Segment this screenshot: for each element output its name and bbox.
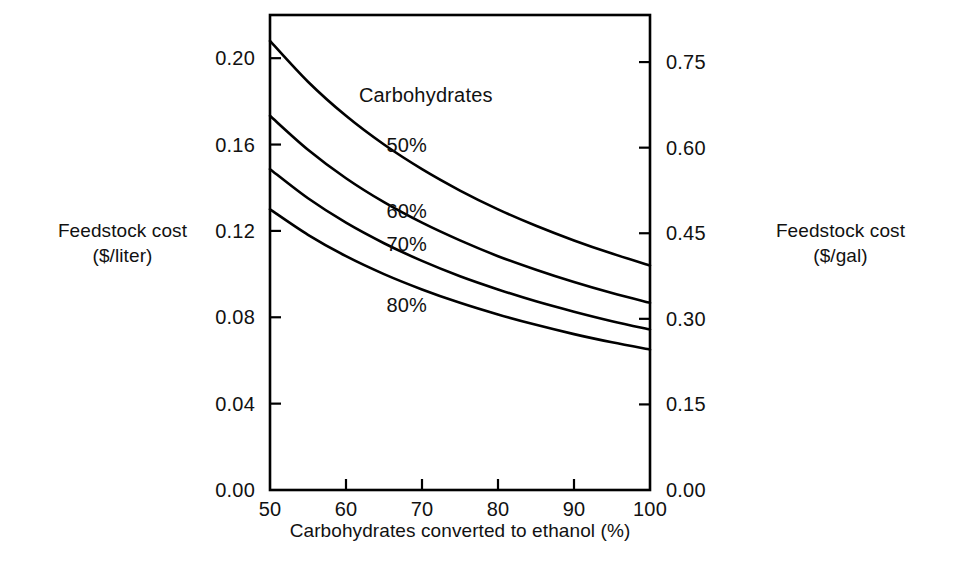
curve-60pct [270, 116, 650, 303]
y-right-tick-label: 0.30 [666, 307, 706, 330]
x-tick-label: 100 [633, 498, 667, 521]
x-tick-label: 90 [563, 498, 586, 521]
x-tick-label: 60 [335, 498, 358, 521]
y-right-tick-label: 0.00 [666, 479, 706, 502]
y-right-tick-label: 0.15 [666, 393, 706, 416]
figure-root: Feedstock cost ($/liter) Feedstock cost … [0, 0, 960, 582]
curve-50pct [270, 41, 650, 266]
x-tick-label: 50 [259, 498, 282, 521]
curve-label-70pct: 70% [386, 233, 427, 256]
y-left-tick-label: 0.04 [215, 392, 255, 415]
y-right-tick-label: 0.45 [666, 222, 706, 245]
x-tick-label: 70 [411, 498, 434, 521]
x-tick-label: 80 [487, 498, 510, 521]
y-left-tick-label: 0.16 [215, 133, 255, 156]
y-left-tick-label: 0.08 [215, 306, 255, 329]
curve-label-60pct: 60% [386, 200, 427, 223]
curve-label-50pct: 50% [386, 133, 427, 156]
curve-70pct [270, 169, 650, 329]
y-left-tick-label: 0.00 [215, 479, 255, 502]
series-group-label: Carbohydrates [359, 83, 493, 106]
curve-80pct [270, 209, 650, 349]
y-right-tick-label: 0.60 [666, 136, 706, 159]
y-left-tick-label: 0.20 [215, 47, 255, 70]
y-left-tick-label: 0.12 [215, 219, 255, 242]
axis-ticks [270, 58, 650, 490]
curve-label-80pct: 80% [386, 294, 427, 317]
y-right-tick-label: 0.75 [666, 51, 706, 74]
